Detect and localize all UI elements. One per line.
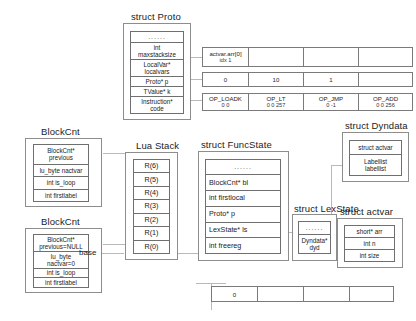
actvar-field: int n (345, 238, 394, 250)
array-cell-line1: OP_ADD (373, 95, 398, 102)
k-array-row: 0 10 1 (202, 72, 413, 87)
array-cell: 0 (203, 73, 249, 86)
array-cell (350, 287, 393, 301)
diagram-canvas: struct Proto ...... int maxstacksize Loc… (0, 0, 416, 321)
blockcnt2-struct: BlockCnt* previous=NULL lu_byte nactvar=… (33, 234, 89, 288)
dyndata-struct: struct actvar Labellist labellist (349, 140, 402, 176)
array-cell: OP_LOADK 0 0 (203, 94, 249, 110)
blockcnt1-field: lu_byte nactvar (34, 165, 88, 177)
proto-field: int maxstacksize (131, 43, 183, 60)
array-cell-line2: 0 0 256 (376, 102, 395, 108)
array-cell-line1: OP_LOADK (209, 95, 242, 102)
array-cell-line2: idx 1 (220, 57, 232, 63)
array-cell: 10 (249, 73, 304, 86)
funcstate-field: ...... (206, 160, 280, 175)
array-cell-line1: OP_JMP (319, 95, 343, 102)
connector-line (196, 283, 226, 284)
luastack-struct: R(6) R(5) R(4) R(3) R(2) R(1) R(0) (133, 159, 170, 254)
code-array-row: OP_LOADK 0 0 OP_LT 0 0 257 OP_JMP 0 -1 O… (202, 93, 413, 111)
array-cell-line1: 1 (329, 76, 332, 83)
proto-field: Instruction* code (131, 97, 183, 113)
array-cell: OP_JMP 0 -1 (304, 94, 359, 110)
stack-register: R(2) (134, 214, 169, 227)
array-cell-line2: 0 -1 (326, 102, 336, 108)
array-cell: actvar.arr[0] idx 1 (203, 48, 249, 66)
stack-register: R(3) (134, 200, 169, 213)
funcstate-field: LexState* ls (206, 223, 280, 239)
dyndata-field: Labellist labellist (350, 155, 401, 175)
stack-register: R(5) (134, 173, 169, 186)
array-cell-line1: 10 (273, 76, 280, 83)
array-cell (359, 73, 412, 86)
funcstate-field: Proto* p (206, 207, 280, 223)
funcstate-field: int freereg (206, 238, 280, 253)
proto-title: struct Proto (131, 11, 181, 22)
connector-line (190, 79, 202, 80)
funcstate-struct: ...... BlockCnt* bl int firstlocal Proto… (205, 159, 281, 254)
luastack-title: Lua Stack (136, 140, 179, 151)
blockcnt2-title: BlockCnt (41, 216, 80, 227)
array-cell-line1: 0 (233, 291, 236, 298)
lexstate-struct: ...... Dyndata* dyd (298, 221, 331, 254)
stack-register: R(0) (134, 241, 169, 253)
proto-field: Proto* p (131, 77, 183, 87)
proto-struct: ...... int maxstacksize LocalVar* localv… (130, 31, 184, 114)
proto-field: LocalVar* localvars (131, 60, 183, 77)
lexstate-field: ...... (299, 222, 330, 235)
blockcnt1-field: BlockCnt* previous (34, 145, 88, 165)
base-label: base (79, 248, 96, 257)
array-cell: OP_LT 0 0 257 (249, 94, 304, 110)
proto-field: TValue* k (131, 87, 183, 97)
array-cell-line1: OP_LT (267, 95, 286, 102)
blockcnt1-field: int firstlabel (34, 190, 88, 201)
actvar-title: struct actvar (340, 206, 393, 217)
dyndata-field: struct actvar (350, 141, 401, 155)
array-cell (249, 48, 304, 66)
connector-line (178, 253, 198, 254)
connector-line (211, 302, 212, 310)
array-cell-line1: actvar.arr[0] (209, 50, 241, 57)
blockcnt1-title: BlockCnt (41, 126, 80, 137)
blockcnt1-field: int is_loop (34, 177, 88, 189)
funcstate-field: int firstlocal (206, 191, 280, 207)
actvar-array-row: actvar.arr[0] idx 1 (202, 47, 413, 67)
lexstate-field: Dyndata* dyd (299, 235, 330, 253)
array-cell-line1: 0 (224, 76, 227, 83)
actvar-field: int size (345, 250, 394, 261)
blockcnt2-field: int is_loop (34, 269, 88, 279)
connector-line (103, 244, 125, 245)
actvar-field: short* arr (345, 226, 394, 238)
connector-line (103, 153, 125, 154)
actvar-struct: short* arr int n int size (344, 225, 395, 262)
connector-line (190, 100, 202, 101)
stack-register: R(6) (134, 160, 169, 173)
array-cell: 0 (212, 287, 258, 301)
stack-register: R(4) (134, 187, 169, 200)
array-cell: OP_ADD 0 0 256 (359, 94, 412, 110)
dyndata-title: struct Dyndata (345, 120, 408, 131)
array-cell (304, 287, 350, 301)
array-cell: 1 (304, 73, 359, 86)
array-cell-line2: 0 0 257 (267, 102, 286, 108)
stack-register: R(1) (134, 227, 169, 240)
proto-field: ...... (131, 32, 183, 43)
funcstate-title: struct FuncState (201, 139, 272, 150)
bottom-array-row: 0 (211, 286, 394, 302)
blockcnt2-field: int firstlabel (34, 278, 88, 287)
array-cell (258, 287, 304, 301)
array-cell (359, 48, 412, 66)
blockcnt1-struct: BlockCnt* previous lu_byte nactvar int i… (33, 144, 89, 202)
connector-line (190, 57, 202, 58)
array-cell (304, 48, 359, 66)
array-cell-line2: 0 0 (222, 102, 230, 108)
funcstate-field: BlockCnt* bl (206, 175, 280, 191)
